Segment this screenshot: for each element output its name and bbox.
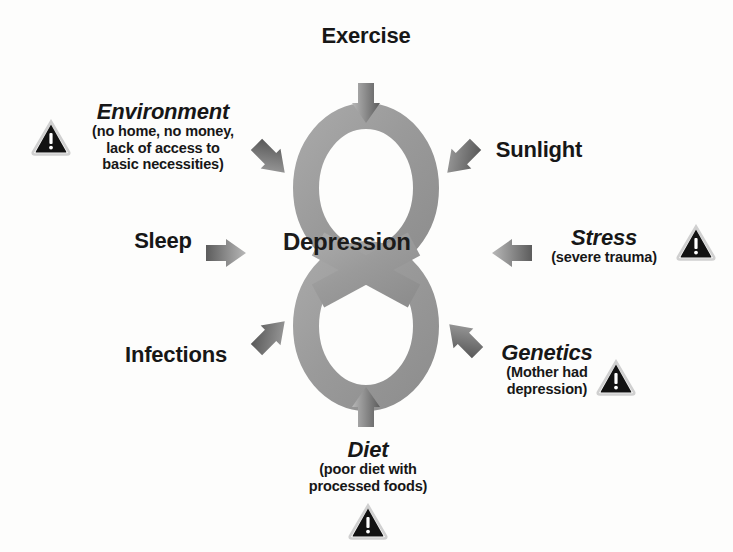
warning-icon-stress [676,224,716,265]
arrow-genetics [439,314,487,362]
arrow-sunlight [437,135,485,183]
arrow-environment [247,135,295,183]
warning-icon-diet [348,503,388,544]
arrow-diet [352,387,380,427]
arrow-exercise [352,83,380,123]
arrow-stress [492,239,532,267]
depression-factors-diagram: Depression Exercise Environment (no home… [0,0,733,552]
arrow-layer [0,0,733,552]
warning-icon-environment [31,119,71,160]
warning-icon-genetics [596,359,636,400]
center-label-depression: Depression [283,228,411,256]
arrow-sleep [206,239,246,267]
arrow-infections [247,311,295,359]
